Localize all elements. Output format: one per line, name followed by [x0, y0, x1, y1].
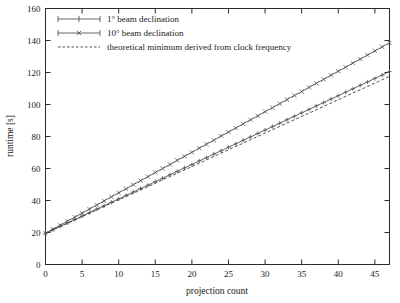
- x-tick-label: 40: [334, 269, 344, 279]
- x-tick-label: 0: [43, 269, 48, 279]
- y-tick-label: 40: [32, 196, 42, 206]
- y-tick-label: 160: [27, 4, 41, 14]
- y-tick-label: 140: [27, 36, 41, 46]
- x-tick-label: 30: [261, 269, 271, 279]
- runtime-vs-projection-count-chart: 020406080100120140160 051015202530354045…: [0, 0, 400, 303]
- legend-label-theoretical-minimum: theoretical minimum derived from clock f…: [107, 42, 292, 52]
- y-tick-label: 60: [32, 164, 42, 174]
- x-tick-label: 5: [80, 269, 85, 279]
- x-axis-title: projection count: [186, 286, 248, 296]
- x-tick-label: 35: [297, 269, 307, 279]
- y-tick-label: 100: [27, 100, 41, 110]
- x-tick-label: 15: [151, 269, 161, 279]
- y-tick-label: 80: [32, 132, 42, 142]
- y-tick-label: 0: [36, 260, 41, 270]
- legend-label-10deg: 10° beam declination: [107, 28, 184, 38]
- y-tick-label: 20: [32, 228, 42, 238]
- legend-label-1deg: 1° beam declination: [107, 14, 180, 24]
- x-tick-label: 10: [114, 269, 124, 279]
- y-axis-title: runtime [s]: [5, 115, 15, 157]
- y-tick-label: 120: [27, 68, 41, 78]
- x-tick-label: 45: [370, 269, 380, 279]
- x-tick-label: 20: [187, 269, 197, 279]
- chart-figure: 020406080100120140160 051015202530354045…: [0, 0, 400, 303]
- x-tick-label: 25: [224, 269, 234, 279]
